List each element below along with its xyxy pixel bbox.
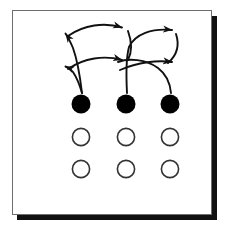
dot-filled-r1c3 — [161, 95, 180, 114]
dot-open-r3c1 — [72, 160, 89, 177]
arrow-upper-right-tail — [168, 34, 178, 63]
dot-layer — [72, 95, 180, 178]
arrow-layer — [66, 25, 178, 93]
dot-open-r2c2 — [117, 128, 134, 145]
dot-open-r2c3 — [161, 128, 178, 145]
dot-filled-r1c1 — [72, 95, 91, 114]
dot-open-r3c3 — [161, 160, 178, 177]
dot-open-r2c1 — [72, 128, 89, 145]
diagram-canvas — [0, 0, 244, 231]
dot-open-r3c2 — [117, 160, 134, 177]
arrow-upper-middle — [68, 25, 122, 36]
arrow-lower-right — [120, 61, 172, 70]
dot-filled-r1c2 — [117, 95, 136, 114]
figure-root — [0, 0, 244, 231]
